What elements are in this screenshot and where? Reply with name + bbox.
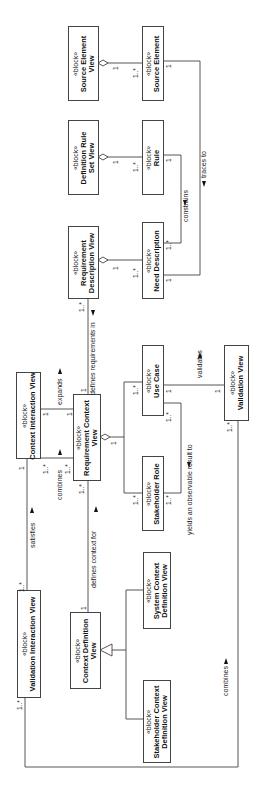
block-context-interaction-view[interactable]: «block» Context Interaction View <box>16 372 41 459</box>
multiplicity: 1 <box>110 441 117 445</box>
block-name: Validation View <box>236 356 244 410</box>
multiplicity: 1..* <box>64 464 71 474</box>
block-name: Context Interaction View <box>28 372 36 459</box>
label-combines-top: combines <box>56 470 63 500</box>
multiplicity: 1..* <box>132 495 139 505</box>
multiplicity: 1 <box>18 466 25 470</box>
block-name: Rule <box>153 145 161 169</box>
label-satisfies: satisfies <box>29 523 36 548</box>
label-defines-context-for: defines context for <box>90 531 97 588</box>
label-validates: validates <box>196 350 203 378</box>
multiplicity: 1..* <box>132 162 139 172</box>
multiplicity: 1..* <box>165 495 172 505</box>
multiplicity: 1 <box>165 158 172 162</box>
block-name: View <box>89 618 97 683</box>
label-constrains: constrains <box>182 190 189 222</box>
multiplicity: 1 <box>80 606 87 610</box>
multiplicity: 1..* <box>226 422 233 432</box>
multiplicity: 1..* <box>18 582 25 592</box>
label-yields-observable-result: yields an observable result to <box>186 444 193 535</box>
block-stakeholder-role[interactable]: «block» Stakeholder Role <box>142 456 164 531</box>
block-name: View <box>87 35 95 92</box>
block-name: View <box>91 400 99 476</box>
block-validation-view[interactable]: «block» Validation View <box>224 345 249 421</box>
block-name: Source Element <box>153 35 161 92</box>
block-validation-interaction-view[interactable]: «block» Validation Interaction View <box>17 590 41 698</box>
multiplicity: 1..* <box>78 484 85 494</box>
block-requirement-description-view[interactable]: «block» Requirement Description View <box>68 226 99 299</box>
multiplicity: 1..* <box>78 302 85 312</box>
block-name: Use Case <box>153 364 161 398</box>
block-definition-rule-set-view[interactable]: «block» Definition Rule Set View <box>68 120 99 195</box>
multiplicity: 1..* <box>165 240 172 250</box>
multiplicity: 1..* <box>16 700 23 710</box>
multiplicity: 1..* <box>132 268 139 278</box>
block-context-definition-view[interactable]: «block» Context Definition View <box>70 612 101 689</box>
multiplicity: 1 <box>165 389 172 393</box>
multiplicity: 1 <box>112 160 119 164</box>
multiplicity: 1 <box>214 389 221 393</box>
block-source-element[interactable]: «block» Source Element <box>142 26 164 101</box>
multiplicity: 1 <box>66 412 73 416</box>
multiplicity: 1..* <box>132 68 139 78</box>
block-name: Need Description <box>153 230 161 292</box>
block-name: Definition View <box>161 685 169 758</box>
block-name: Validation Interaction View <box>29 597 37 692</box>
block-use-case[interactable]: «block» Use Case <box>142 345 164 416</box>
block-rule[interactable]: «block» Rule <box>142 120 164 195</box>
block-source-element-view[interactable]: «block» Source Element View <box>68 26 99 101</box>
block-name: Description View <box>87 232 95 292</box>
label-traces-to: traces to <box>200 151 207 178</box>
label-defines-requirements-in: defines requirements in <box>89 322 96 395</box>
block-name: Definition View <box>161 562 169 619</box>
multiplicity: 1 <box>42 412 49 416</box>
multiplicity: 1..* <box>132 385 139 395</box>
block-name: Stakeholder Role <box>153 463 161 524</box>
label-combines-bottom: combines <box>222 666 229 696</box>
block-system-context-definition-view[interactable]: «block» System Context Definition View <box>143 552 171 629</box>
multiplicity: 1 <box>165 278 172 282</box>
multiplicity: 1..* <box>42 464 49 474</box>
block-stakeholder-context-definition-view[interactable]: «block» Stakeholder Context Definition V… <box>143 680 171 763</box>
label-expands: expands <box>56 379 63 405</box>
block-name: Set View <box>87 131 95 184</box>
multiplicity: 1 <box>112 66 119 70</box>
multiplicity: 1 <box>112 266 119 270</box>
block-need-description[interactable]: «block» Need Description <box>142 222 164 299</box>
multiplicity: 1 <box>80 388 87 392</box>
multiplicity: 1..* <box>165 412 172 422</box>
multiplicity: 1 <box>165 64 172 68</box>
block-requirement-context-view[interactable]: «block» Requirement Context View <box>73 394 101 481</box>
